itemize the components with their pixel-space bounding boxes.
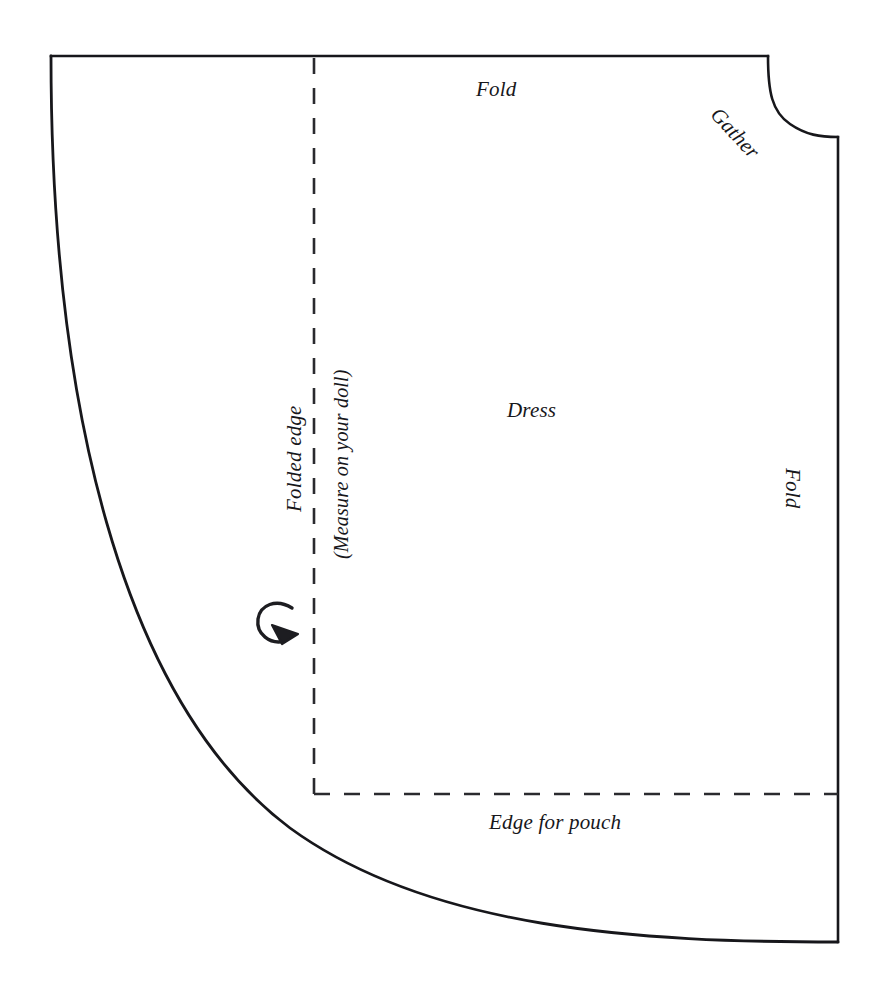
label-folded-edge: Folded edge xyxy=(284,405,305,512)
label-measure-on-your-doll: (Measure on your doll) xyxy=(331,369,351,559)
label-fold-top: Fold xyxy=(476,79,516,100)
pattern-hem-curve xyxy=(51,56,838,942)
label-dress: Dress xyxy=(507,400,556,421)
label-fold-right: Fold xyxy=(782,468,803,508)
pattern-gather-notch-curve xyxy=(768,56,838,137)
label-edge-for-pouch: Edge for pouch xyxy=(489,812,621,833)
pattern-diagram-page: Fold Gather Folded edge (Measure on your… xyxy=(0,0,890,983)
fold-direction-arrow-icon xyxy=(258,603,298,644)
